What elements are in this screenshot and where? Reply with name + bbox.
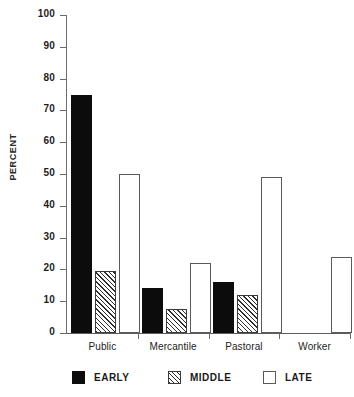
legend-label: EARLY — [94, 372, 129, 383]
bar-pastoral-early[interactable] — [213, 282, 234, 333]
y-axis-tick — [60, 110, 67, 111]
bar-chart: PERCENT 1009080706050403020100 PublicMer… — [0, 0, 354, 397]
x-axis-label-worker: Worker — [279, 341, 350, 352]
y-axis-tick — [60, 174, 67, 175]
y-axis-tick-label: 0 — [0, 326, 55, 337]
bar-public-early[interactable] — [71, 95, 92, 334]
y-axis-tick-label: 80 — [0, 72, 55, 83]
y-axis-tick-label: 10 — [0, 294, 55, 305]
bar-mercantile-late[interactable] — [190, 263, 211, 333]
legend-swatch-middle-icon — [168, 371, 181, 384]
y-axis-tick — [60, 333, 67, 334]
y-axis-tick — [60, 301, 67, 302]
x-axis-label-pastoral: Pastoral — [209, 341, 280, 352]
bar-worker-late[interactable] — [331, 257, 352, 333]
y-axis-tick-label: 90 — [0, 40, 55, 51]
legend-item-late[interactable]: LATE — [263, 368, 312, 386]
x-axis-label-mercantile: Mercantile — [138, 341, 209, 352]
y-axis-tick — [60, 142, 67, 143]
y-axis-tick — [60, 269, 67, 270]
y-axis-tick-label: 100 — [0, 8, 55, 19]
y-axis-tick-label: 20 — [0, 262, 55, 273]
legend-swatch-early-icon — [72, 371, 85, 384]
y-axis-tick-label: 60 — [0, 135, 55, 146]
bar-public-late[interactable] — [119, 174, 140, 333]
y-axis-tick-label: 70 — [0, 103, 55, 114]
y-axis-title: PERCENT — [8, 107, 18, 207]
y-axis-tick — [60, 47, 67, 48]
x-axis-label-public: Public — [67, 341, 138, 352]
chart-legend: EARLYMIDDLELATE — [0, 368, 354, 390]
y-axis-tick — [60, 206, 67, 207]
legend-label: MIDDLE — [190, 372, 231, 383]
y-axis-tick-label: 50 — [0, 167, 55, 178]
bar-mercantile-early[interactable] — [142, 288, 163, 333]
y-axis-tick — [60, 15, 67, 16]
legend-label: LATE — [285, 372, 312, 383]
bar-pastoral-late[interactable] — [261, 177, 282, 333]
y-axis-tick — [60, 79, 67, 80]
y-axis-tick-label: 40 — [0, 199, 55, 210]
legend-item-early[interactable]: EARLY — [72, 368, 129, 386]
legend-swatch-late-icon — [263, 371, 276, 384]
bar-pastoral-middle[interactable] — [237, 295, 258, 333]
y-axis-tick — [60, 238, 67, 239]
bar-mercantile-middle[interactable] — [166, 309, 187, 333]
legend-item-middle[interactable]: MIDDLE — [168, 368, 231, 386]
bar-public-middle[interactable] — [95, 271, 116, 333]
y-axis-tick-label: 30 — [0, 231, 55, 242]
